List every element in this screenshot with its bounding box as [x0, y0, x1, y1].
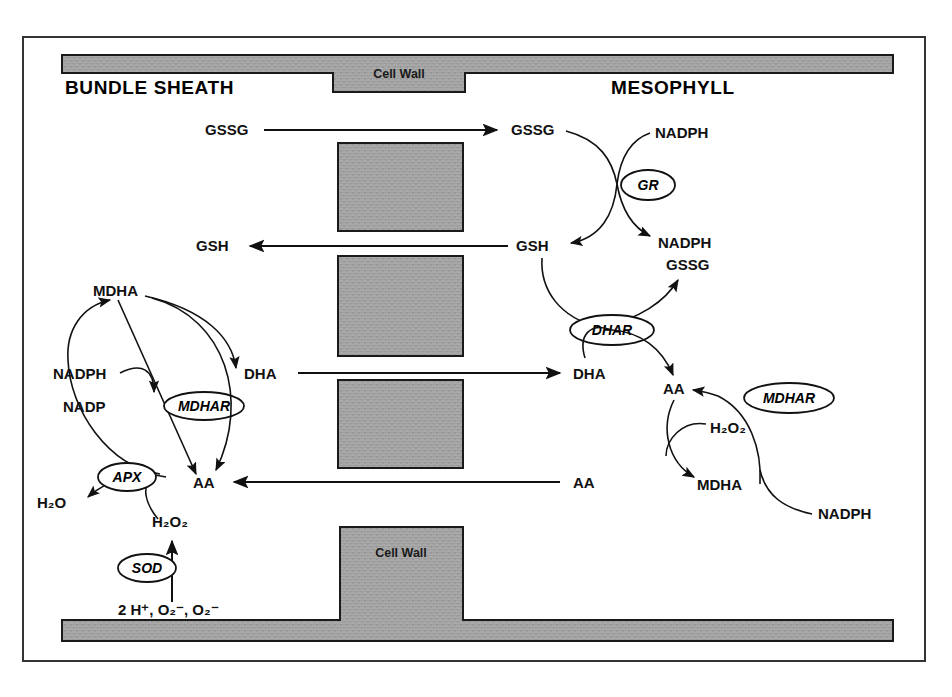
cell-wall-bottom	[62, 527, 893, 641]
cell-wall-block-3	[338, 380, 463, 468]
metabolite-h2o-bundle: H₂O	[37, 494, 66, 511]
gr-to-gsh-curve	[571, 184, 617, 243]
metabolite-nadph-mdhar: NADPH	[818, 505, 871, 522]
gr-gssg-in-curve	[566, 131, 617, 184]
metabolite-gssg-mesophyll: GSSG	[511, 121, 554, 138]
metabolite-nadph-gr-out: NADPH	[658, 234, 711, 251]
metabolite-sod-substrate: 2 H⁺, O₂⁻, O₂⁻	[118, 601, 219, 618]
enzyme-gr-label: GR	[638, 177, 660, 193]
enzyme-sod-label: SOD	[132, 560, 162, 576]
cell-wall-block-2	[338, 256, 463, 356]
metabolite-h2o2-mesophyll: H₂O₂	[710, 419, 746, 436]
dha-outer-arc-to-aa	[152, 298, 231, 470]
region-label-bundle-sheath: BUNDLE SHEATH	[65, 77, 234, 98]
metabolite-mdha-bundle: MDHA	[93, 282, 138, 299]
mdhar-nadph-in-curve	[760, 470, 812, 514]
enzyme-mdhar-bundle-label: MDHAR	[178, 398, 231, 414]
metabolite-nadp-bundle: NADP	[63, 398, 106, 415]
cell-wall-label-bottom: Cell Wall	[375, 546, 427, 560]
metabolite-dha-mesophyll: DHA	[573, 365, 606, 382]
metabolite-gsh-bundle: GSH	[196, 237, 229, 254]
metabolite-gsh-mesophyll: GSH	[516, 237, 549, 254]
metabolite-dha-bundle: DHA	[244, 365, 277, 382]
nadph-to-nadp-curve	[120, 368, 154, 392]
mdha-to-aa-diagonal	[118, 300, 196, 474]
mdha-to-dha-arc	[145, 296, 236, 368]
metabolite-nadph-bundle: NADPH	[53, 365, 106, 382]
metabolite-aa-mesophyll-upper: AA	[663, 380, 685, 397]
enzyme-mdhar-mesophyll-label: MDHAR	[763, 390, 816, 406]
metabolite-h2o2-bundle: H₂O₂	[152, 513, 188, 530]
metabolite-nadph-gr-in: NADPH	[655, 124, 708, 141]
cell-wall-label-top: Cell Wall	[373, 67, 425, 81]
metabolite-gssg-bundle: GSSG	[205, 121, 248, 138]
metabolite-mdha-mesophyll: MDHA	[697, 476, 742, 493]
metabolite-aa-bundle: AA	[193, 474, 215, 491]
metabolite-aa-mesophyll-lower: AA	[573, 474, 595, 491]
cell-wall-block-1	[338, 143, 463, 231]
antioxidant-pathway-diagram: Cell Wall Cell Wall BUNDLE SHEATH MESOPH…	[0, 0, 952, 697]
region-label-mesophyll: MESOPHYLL	[611, 77, 735, 98]
aa-to-mdha-bundle-loop	[68, 300, 160, 474]
figure-canvas: Cell Wall Cell Wall BUNDLE SHEATH MESOPH…	[0, 0, 952, 697]
enzyme-apx-label: APX	[112, 469, 143, 485]
metabolite-gssg-gr-out: GSSG	[666, 256, 709, 273]
